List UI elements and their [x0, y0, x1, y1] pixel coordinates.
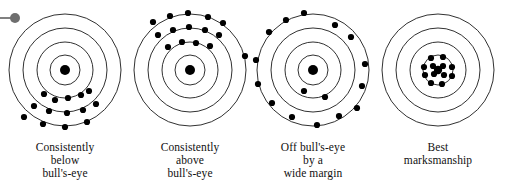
shot-dot — [348, 34, 354, 40]
shot-dot — [449, 73, 455, 79]
shot-dot — [439, 81, 445, 87]
caption-line: Best — [375, 141, 501, 154]
marksmanship-figure: Consistently below bull's-eye Consistent… — [0, 0, 505, 187]
shot-dot — [220, 20, 226, 26]
shot-dot — [434, 66, 442, 74]
caption-2: Off bull's-eye by a wide margin — [250, 141, 376, 181]
shot-dot — [255, 81, 261, 87]
shot-dot — [269, 100, 275, 106]
caption-line: bull's-eye — [2, 167, 128, 180]
caption-1: Consistently above bull's-eye — [127, 141, 253, 181]
bullseye-1 — [185, 65, 195, 75]
shot-dot — [65, 95, 71, 101]
bullseye-0 — [60, 65, 70, 75]
caption-line: below — [2, 154, 128, 167]
shot-dot — [84, 119, 90, 125]
shot-dot — [185, 10, 191, 16]
shot-dot — [359, 83, 365, 89]
shot-dot — [80, 107, 86, 113]
shot-dot — [422, 72, 428, 78]
shot-dot — [441, 72, 447, 78]
caption-0: Consistently below bull's-eye — [2, 141, 128, 181]
shot-dot — [207, 43, 213, 49]
shot-dot — [421, 64, 427, 70]
shot-dot — [155, 32, 161, 38]
shot-dot — [165, 44, 171, 50]
shot-dot — [167, 13, 173, 19]
shot-dots-0 — [21, 88, 99, 130]
shot-dot — [41, 91, 47, 97]
shot-dot — [428, 80, 434, 86]
shot-dot — [46, 108, 52, 114]
shot-dot — [31, 103, 37, 109]
shot-dot — [428, 55, 434, 61]
shot-dot — [52, 97, 58, 103]
caption-line: Off bull's-eye — [250, 141, 376, 154]
shot-dot — [186, 24, 192, 30]
target-panel-2: Off bull's-eye by a wide margin — [250, 0, 376, 187]
caption-line: by a — [250, 154, 376, 167]
shot-dot — [440, 54, 446, 60]
shot-dot — [202, 27, 208, 33]
shot-dot — [253, 57, 259, 63]
shot-dot — [179, 39, 185, 45]
target-chart-3 — [375, 0, 501, 140]
target-chart-0 — [2, 0, 128, 140]
shot-dot — [289, 114, 295, 120]
bullseye-2 — [308, 65, 318, 75]
shot-dot — [86, 88, 92, 94]
shot-dot — [93, 101, 99, 107]
target-chart-2 — [250, 0, 376, 140]
shot-dot — [301, 10, 307, 16]
shot-dot — [170, 27, 176, 33]
shot-dot — [301, 88, 307, 94]
caption-line: wide margin — [250, 167, 376, 180]
shot-dot — [193, 40, 199, 46]
shot-dot — [216, 32, 222, 38]
shot-dot — [449, 64, 455, 70]
caption-3: Best marksmanship — [375, 141, 501, 167]
shot-dot — [242, 53, 248, 59]
caption-line: Consistently — [127, 141, 253, 154]
shot-dot — [62, 124, 68, 130]
shot-dot — [150, 19, 156, 25]
caption-line: marksmanship — [375, 154, 501, 167]
shot-dot — [332, 22, 338, 28]
target-panel-1: Consistently above bull's-eye — [127, 0, 253, 187]
shot-dot — [266, 29, 272, 35]
shot-dot — [283, 17, 289, 23]
target-chart-1 — [127, 0, 253, 140]
caption-line: above — [127, 154, 253, 167]
caption-line: Consistently — [2, 141, 128, 154]
shot-dot — [78, 92, 84, 98]
shot-dot — [40, 121, 46, 127]
shot-dot — [64, 110, 70, 116]
caption-line: bull's-eye — [127, 167, 253, 180]
shot-dots-3 — [421, 54, 455, 87]
shot-dot — [322, 94, 328, 100]
shot-dot — [336, 113, 342, 119]
target-panel-0: Consistently below bull's-eye — [2, 0, 128, 187]
shot-dot — [362, 61, 368, 67]
shot-dot — [354, 105, 360, 111]
shot-dot — [314, 122, 320, 128]
shot-dot — [205, 14, 211, 20]
target-panel-3: Best marksmanship — [375, 0, 501, 187]
shot-dot — [21, 114, 27, 120]
